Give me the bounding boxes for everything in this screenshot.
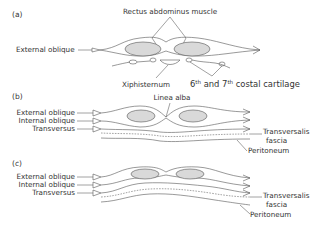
peritoneum-label-c: Peritoneum	[250, 210, 291, 219]
panel-a: (a) Rectus abdominus muscle External obl…	[12, 7, 300, 89]
layer-trans-c	[101, 183, 250, 193]
panel-c-label: (c)	[12, 159, 22, 168]
panel-b: (b) Linea alba External oblique Internal…	[12, 92, 310, 155]
costal-leader-1	[190, 62, 212, 76]
external-oblique-label-a: External oblique	[16, 45, 75, 54]
peritoneum-leader-c	[240, 205, 250, 214]
fascia-label-c: fascia	[266, 200, 287, 209]
linea-alba-label: Linea alba	[153, 93, 190, 102]
transversalis-fascia-c	[101, 189, 250, 197]
rectus-leader-left	[152, 17, 170, 44]
rectus-leader-right	[170, 17, 186, 44]
transversus-label-b: Transversus	[31, 124, 75, 133]
xiphisternum-label: Xiphisternum	[122, 80, 170, 89]
xiphisternum-shape	[160, 60, 180, 65]
cartilage-right-tiny-a	[186, 58, 192, 62]
rectus-abdominus-label: Rectus abdominus muscle	[123, 7, 218, 16]
transversus-label-c: Transversus	[31, 188, 75, 197]
rectus-muscle-left-c	[131, 169, 159, 179]
linea-alba-leader	[166, 103, 170, 117]
xiphisternum-leader	[156, 65, 168, 78]
fascia-label-b: fascia	[266, 136, 287, 145]
layer-trans-b	[101, 129, 250, 132]
transversalis-label-b: Transversalis	[262, 127, 310, 136]
panel-c: (c) External oblique Internal oblique Tr…	[12, 159, 310, 219]
panel-a-label: (a)	[12, 10, 23, 19]
costal-cartilage-label: 6th and 7th costal cartilage	[190, 79, 300, 89]
external-oblique-arrow-a	[92, 48, 100, 52]
transversalis-label-c: Transversalis	[262, 191, 310, 200]
layer-leaders-b	[77, 113, 93, 129]
cartilage-link-a	[137, 61, 150, 62]
layer-arrows-b	[93, 110, 101, 132]
panel-b-label: (b)	[12, 92, 23, 101]
abdominal-wall-diagram: (a) Rectus abdominus muscle External obl…	[0, 0, 330, 228]
layer-mid-c	[101, 175, 250, 186]
cartilage-left-tiny-a	[150, 58, 156, 62]
peritoneum-label-b: Peritoneum	[248, 146, 289, 155]
layer-arrows-c	[93, 174, 101, 196]
costal-leader-2	[212, 66, 222, 76]
peritoneum-b	[101, 138, 250, 142]
layer-top-b	[101, 106, 250, 117]
layer-mid-b	[101, 118, 250, 127]
rectus-muscle-left-b	[127, 110, 155, 122]
rectus-muscle-right-c	[176, 169, 204, 179]
cartilage-left-small-a	[129, 60, 137, 64]
rectus-muscle-left-a	[125, 42, 161, 56]
rectus-muscle-right-a	[174, 42, 210, 56]
transversalis-fascia-b	[101, 133, 250, 137]
peritoneum-leader-b	[237, 140, 247, 151]
cartilage-line-left-a	[112, 62, 130, 66]
rectus-muscle-right-b	[179, 110, 207, 122]
layer-leaders-c	[77, 177, 93, 193]
